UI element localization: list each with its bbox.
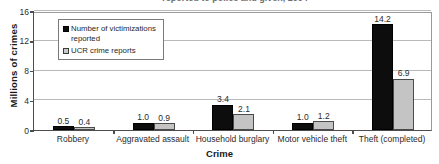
bar-ucr[interactable]: 6.9: [393, 79, 414, 130]
legend-label-victimizations: Number of victimizations reported: [71, 24, 159, 43]
bar-group: 1.01.2: [273, 13, 353, 130]
bar-value-label: 2.1: [238, 104, 250, 114]
x-category-label: Aggravated assault: [113, 134, 193, 144]
bar-chart: reported to police and given, 2004 Milli…: [0, 0, 439, 164]
bar-group: 14.26.9: [353, 13, 433, 130]
y-tick-label: 4: [3, 96, 29, 106]
bar-ucr[interactable]: 0.4: [74, 127, 95, 130]
y-tick-label: 0: [3, 126, 29, 136]
legend: Number of victimizations reported UCR cr…: [58, 19, 164, 60]
y-tick-label: 16: [3, 7, 29, 17]
bar-ucr[interactable]: 1.2: [313, 121, 334, 130]
bar-victimizations[interactable]: 1.0: [133, 123, 154, 130]
bar-value-label: 0.5: [57, 116, 69, 126]
y-tick-mark: [30, 11, 34, 13]
x-category-label: Theft (completed): [352, 134, 432, 144]
bar-value-label: 1.0: [137, 112, 149, 122]
legend-swatch-light-icon: [63, 48, 69, 54]
gridline: [34, 10, 431, 11]
x-category-label: Motor vehicle theft: [272, 134, 352, 144]
chart-title: reported to police and given, 2004: [150, 0, 320, 3]
y-tick-mark: [30, 41, 34, 43]
bar-value-label: 6.9: [398, 68, 410, 78]
legend-swatch-dark-icon: [63, 26, 69, 32]
legend-item-ucr: UCR crime reports: [63, 46, 159, 56]
bar-group: 3.42.1: [194, 13, 274, 130]
bar-victimizations[interactable]: 1.0: [292, 123, 313, 130]
legend-label-ucr: UCR crime reports: [71, 46, 136, 56]
bar-victimizations[interactable]: 3.4: [212, 105, 233, 130]
legend-item-victimizations: Number of victimizations reported: [63, 24, 159, 43]
bar-victimizations[interactable]: 0.5: [53, 126, 74, 130]
y-tick-label: 8: [3, 66, 29, 76]
y-tick-mark: [30, 71, 34, 73]
bar-value-label: 14.2: [374, 14, 391, 24]
bar-value-label: 0.4: [78, 117, 90, 127]
x-category-label: Household burglary: [193, 134, 273, 144]
bar-value-label: 3.4: [217, 94, 229, 104]
y-tick-label: 12: [3, 36, 29, 46]
bar-value-label: 1.0: [297, 112, 309, 122]
x-axis-label: Crime: [0, 148, 439, 159]
y-tick-mark: [30, 101, 34, 103]
x-category-label: Robbery: [33, 134, 113, 144]
y-tick-mark: [30, 130, 34, 132]
bar-value-label: 0.9: [158, 113, 170, 123]
bar-ucr[interactable]: 0.9: [154, 123, 175, 130]
bar-value-label: 1.2: [318, 111, 330, 121]
bar-victimizations[interactable]: 14.2: [372, 24, 393, 130]
bar-ucr[interactable]: 2.1: [233, 114, 254, 130]
